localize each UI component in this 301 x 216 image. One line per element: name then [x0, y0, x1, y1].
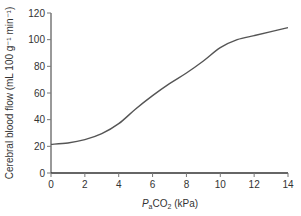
x-tick-label: 12	[249, 179, 261, 190]
x-tick-label: 14	[282, 179, 294, 190]
x-tick-label: 10	[215, 179, 227, 190]
y-axis-label: Cerebral blood flow (mL 100 g⁻¹ min⁻¹)	[4, 7, 15, 179]
y-tick-label: 120	[28, 8, 45, 19]
x-axis: 02468101214	[48, 173, 294, 190]
y-tick-label: 100	[28, 34, 45, 45]
chart: 020406080100120 02468101214 Cerebral blo…	[0, 0, 301, 216]
x-tick-label: 8	[184, 179, 190, 190]
y-axis: 020406080100120	[28, 8, 51, 179]
x-axis-label: PaCO2 (kPa)	[142, 198, 198, 210]
y-tick-label: 60	[34, 88, 46, 99]
x-tick-label: 2	[82, 179, 88, 190]
y-tick-label: 0	[39, 168, 45, 179]
cbf-curve	[51, 28, 288, 145]
y-tick-label: 20	[34, 141, 46, 152]
y-tick-label: 80	[34, 61, 46, 72]
x-tick-label: 0	[48, 179, 54, 190]
x-tick-label: 4	[116, 179, 122, 190]
x-tick-label: 6	[150, 179, 156, 190]
y-tick-label: 40	[34, 114, 46, 125]
